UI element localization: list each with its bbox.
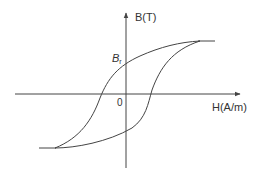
b-axis-label: B(T): [135, 12, 156, 23]
origin-label: 0: [117, 98, 123, 108]
remanence-label: Br: [112, 53, 122, 65]
hysteresis-diagram: [0, 0, 256, 173]
h-axis-label: H(A/m): [212, 102, 247, 113]
remanence-label-sub: r: [119, 58, 121, 65]
